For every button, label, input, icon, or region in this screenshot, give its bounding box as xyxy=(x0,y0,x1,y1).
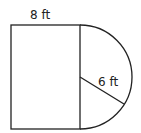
radius-label: 6 ft xyxy=(98,75,118,89)
width-label: 8 ft xyxy=(30,8,50,22)
composite-figure: 8 ft 6 ft xyxy=(0,0,141,133)
rectangle xyxy=(11,25,80,129)
